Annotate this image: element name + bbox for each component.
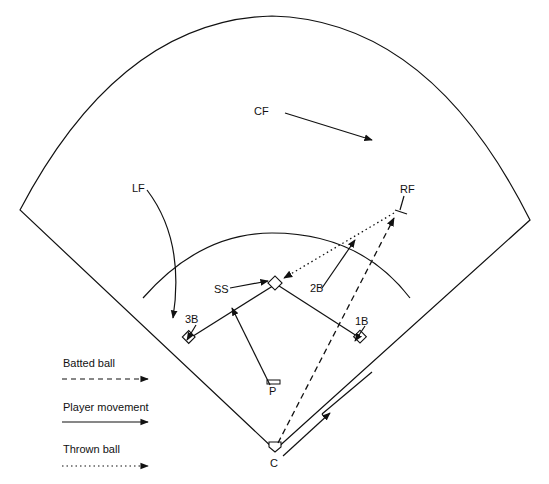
second-base-movement-arrow (322, 240, 355, 288)
legend-thrown-ball-label: Thrown ball (63, 443, 120, 455)
home-plate (269, 442, 281, 452)
label-rf: RF (400, 183, 415, 195)
pitcher-movement-arrow (232, 308, 270, 385)
legend-player-movement-label: Player movement (63, 401, 149, 413)
thrown-ball-path (284, 213, 394, 278)
batted-ball-path (278, 218, 394, 443)
label-p: P (269, 385, 276, 397)
rf-marker (400, 196, 404, 210)
label-2b: 2B (310, 282, 323, 294)
cf-movement-arrow (285, 113, 372, 140)
label-c: C (270, 457, 278, 469)
rf-position-tick (395, 210, 407, 214)
label-cf: CF (254, 105, 269, 117)
label-ss: SS (214, 283, 229, 295)
label-3b: 3B (185, 313, 198, 325)
catcher-movement-arrow (283, 413, 330, 456)
running-lane (322, 372, 372, 418)
lf-movement-arrow (147, 190, 176, 318)
legend-batted-ball-label: Batted ball (63, 357, 115, 369)
field-diagram: CF LF RF SS 2B 3B 1B P C Batted ball Pla… (0, 0, 549, 484)
label-lf: LF (132, 182, 145, 194)
ss-movement-arrow (230, 281, 268, 288)
label-1b: 1B (355, 315, 368, 327)
legend: Batted ball Player movement Thrown ball (62, 357, 149, 466)
